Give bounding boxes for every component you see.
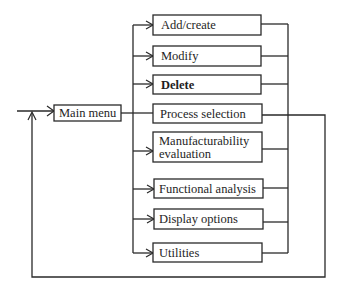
option-label: Utilities — [159, 246, 199, 260]
option-functional-analysis[interactable]: Functional analysis — [133, 179, 288, 198]
main-menu-node[interactable]: Main menu — [54, 105, 121, 121]
option-label-line2: evaluation — [159, 147, 212, 161]
option-label: Modify — [161, 49, 199, 63]
option-label: Process selection — [160, 107, 246, 121]
option-utilities[interactable]: Utilities — [133, 243, 288, 262]
option-display-options[interactable]: Display options — [133, 209, 288, 229]
option-label: Functional analysis — [159, 182, 256, 196]
option-label: Delete — [161, 78, 195, 92]
option-label: Display options — [159, 212, 238, 226]
option-process-selection[interactable]: Process selection — [153, 104, 262, 123]
option-label-line1: Manufacturability — [159, 134, 250, 148]
option-delete[interactable]: Delete — [133, 75, 288, 94]
main-menu-label: Main menu — [59, 106, 117, 120]
option-modify[interactable]: Modify — [133, 46, 288, 66]
menu-flow-diagram: Main menu Add/create Modify Delete Proce… — [0, 0, 341, 291]
option-add-create[interactable]: Add/create — [133, 15, 288, 35]
option-label: Add/create — [161, 18, 216, 32]
option-manufacturability-evaluation[interactable]: Manufacturability evaluation — [133, 132, 288, 162]
